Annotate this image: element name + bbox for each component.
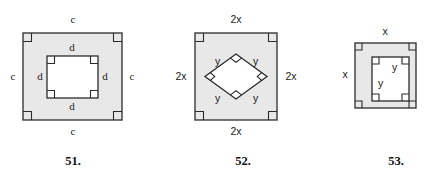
figure-53-label-top-x: x — [379, 26, 391, 37]
worksheet-figures-panel: c c c c d d d d 2x 2x 2x 2x y y y y x x … — [0, 0, 434, 183]
figure-52-label-left-2x: 2x — [170, 71, 192, 82]
figure-51-label-bottom-d: d — [65, 101, 79, 112]
figure-52-label-right-2x: 2x — [280, 71, 302, 82]
figure-51-label-top-c: c — [66, 14, 80, 25]
figure-52-label-upper-left-y: y — [212, 56, 223, 67]
figure-51-label-right-c: c — [125, 71, 139, 82]
figure-51-label-top-d: d — [65, 42, 79, 53]
figure-51-label-left-c: c — [6, 71, 20, 82]
figure-number-52: 52. — [226, 155, 260, 168]
figure-52-label-lower-left-y: y — [212, 93, 223, 104]
figure-53-label-lower-left-y: y — [375, 78, 386, 89]
figure-53-label-upper-right-y: y — [389, 62, 400, 73]
figure-number-53: 53. — [379, 155, 413, 168]
figure-52-label-lower-right-y: y — [250, 93, 261, 104]
figure-52-label-upper-right-y: y — [250, 56, 261, 67]
figure-53-label-left-x: x — [339, 69, 351, 80]
figure-52-group — [195, 33, 277, 120]
figure-52-label-top-2x: 2x — [225, 14, 247, 25]
figure-number-51: 51. — [56, 155, 90, 168]
figure-52-label-bottom-2x: 2x — [225, 126, 247, 137]
figure-51-label-right-d: d — [98, 71, 112, 82]
figure-51-label-bottom-c: c — [66, 126, 80, 137]
figure-51-label-left-d: d — [33, 71, 47, 82]
figure-53-group — [355, 43, 416, 108]
